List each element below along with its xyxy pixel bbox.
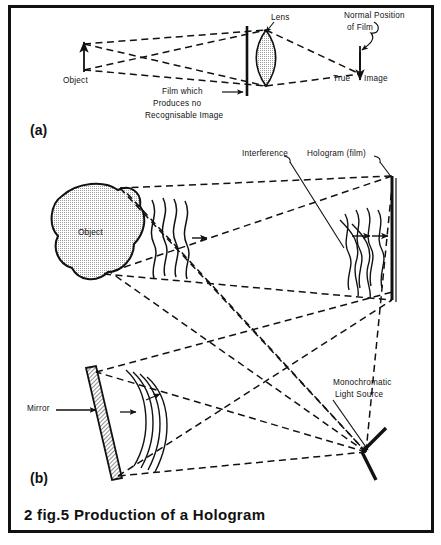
label-part-a: (a)	[30, 122, 47, 138]
lens-shape	[256, 30, 276, 86]
lens-leader	[266, 22, 274, 32]
label-normal-position-line2: of Film	[347, 23, 373, 33]
interference-wavefronts	[340, 208, 388, 298]
object-wavefronts	[151, 198, 207, 279]
label-true: True	[333, 74, 350, 84]
label-film-line2: Produces no	[153, 99, 201, 109]
label-part-b: (b)	[30, 470, 48, 486]
label-interference: Interference	[242, 149, 288, 159]
label-image: Image	[364, 74, 388, 84]
ray-paths-a	[84, 30, 360, 86]
mirror-shape	[86, 366, 122, 480]
label-normal-position-line1: Normal Position	[344, 11, 405, 21]
hologram-plate	[392, 176, 396, 302]
part-b-group	[52, 156, 396, 480]
label-light-source-line2: Light Source	[335, 390, 383, 400]
figure-caption: 2 fig.5 Production of a Hologram	[24, 506, 265, 523]
label-mirror: Mirror	[27, 404, 50, 414]
light-source-shape	[362, 428, 386, 480]
figure-container: Object Lens Film which Produces no Recog…	[0, 0, 441, 545]
label-film-line1: Film which	[162, 87, 203, 97]
label-film-line3: Recognisable Image	[145, 111, 223, 121]
light-source-leader	[333, 400, 368, 450]
label-object-a: Object	[63, 76, 88, 86]
hologram-leader	[374, 156, 392, 178]
part-a-group	[84, 22, 378, 96]
label-hologram-film: Hologram (film)	[307, 149, 366, 159]
label-light-source-line1: Monochromatic	[333, 378, 392, 388]
label-object-b: Object	[78, 228, 103, 238]
label-lens: Lens	[271, 13, 290, 23]
